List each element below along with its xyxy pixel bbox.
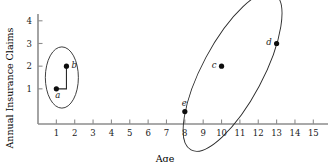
data-point-labels: abcde bbox=[55, 37, 272, 108]
x-tick-label: 6 bbox=[145, 128, 150, 138]
data-point-d bbox=[274, 41, 279, 46]
chart-figure: 1234 123456789101112131415 abcde Annual … bbox=[0, 0, 330, 162]
x-axis-tick-labels: 123456789101112131415 bbox=[54, 128, 319, 138]
x-tick-label: 10 bbox=[216, 128, 227, 138]
y-tick-label: 1 bbox=[27, 84, 32, 94]
data-point-b bbox=[64, 64, 69, 69]
x-tick-label: 3 bbox=[90, 128, 95, 138]
x-tick-label: 2 bbox=[72, 128, 77, 138]
x-tick-label: 11 bbox=[234, 128, 245, 138]
y-axis-tick-labels: 1234 bbox=[27, 16, 32, 94]
connector-a-b bbox=[56, 66, 66, 89]
data-point-e bbox=[182, 109, 187, 114]
data-points bbox=[54, 41, 279, 114]
cluster-left bbox=[45, 47, 78, 108]
data-point-c bbox=[219, 64, 224, 69]
data-point-label-b: b bbox=[71, 60, 76, 70]
y-axis-title-wrap: Annual Insurance Claims bbox=[0, 13, 17, 162]
data-point-label-a: a bbox=[55, 90, 60, 100]
point-connectors bbox=[56, 66, 66, 89]
x-axis-title: Age bbox=[156, 153, 175, 162]
x-tick-label: 13 bbox=[271, 128, 282, 138]
y-tick-label: 4 bbox=[27, 16, 32, 26]
x-tick-label: 12 bbox=[253, 128, 264, 138]
x-tick-label: 9 bbox=[200, 128, 205, 138]
x-tick-label: 14 bbox=[290, 128, 301, 138]
x-tick-label: 5 bbox=[127, 128, 132, 138]
x-tick-label: 1 bbox=[54, 128, 59, 138]
data-point-label-d: d bbox=[266, 37, 272, 47]
x-tick-label: 15 bbox=[308, 128, 319, 138]
y-tick-label: 3 bbox=[27, 39, 32, 49]
y-axis-title: Annual Insurance Claims bbox=[4, 28, 15, 149]
scatter-plot-svg: 1234 123456789101112131415 abcde bbox=[0, 0, 330, 162]
x-tick-label: 4 bbox=[109, 128, 114, 138]
x-axis-title-wrap: Age bbox=[0, 147, 330, 162]
x-tick-label: 7 bbox=[164, 128, 169, 138]
data-point-label-e: e bbox=[182, 98, 187, 108]
y-tick-label: 2 bbox=[27, 61, 32, 71]
data-point-label-c: c bbox=[212, 60, 217, 70]
